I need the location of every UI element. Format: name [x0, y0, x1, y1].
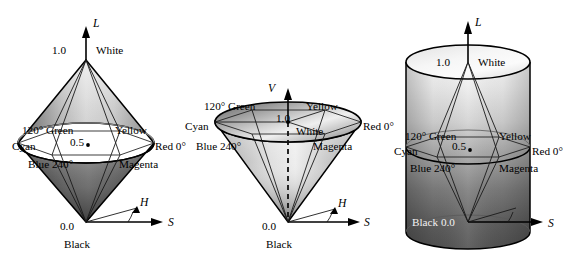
label-green: 120° Green	[22, 124, 74, 136]
label-cyan: Cyan	[394, 145, 418, 157]
label-white: White	[96, 44, 123, 56]
label-bottom-value: 0.0	[60, 220, 74, 232]
diagram-hls-double-cone: L 1.0 White 120° Green Yellow Cyan Red 0…	[12, 17, 186, 250]
label-axis-S: S	[548, 217, 554, 230]
label-axis-L: L	[92, 17, 99, 30]
label-red: Red 0°	[363, 120, 394, 132]
diagram-hsl-cylinder: L 1.0 White 120° Green Yellow Cyan Red 0…	[394, 16, 563, 249]
label-bottom-value: 0.0	[262, 220, 276, 232]
label-blue: Blue 240°	[410, 162, 455, 174]
diagram-hsv-cone: V 1.0 White 120° Green Yellow Cyan Red 0…	[185, 82, 394, 250]
axis-S-and-H	[288, 207, 360, 226]
label-magenta: Magenta	[313, 140, 352, 152]
label-black: Black	[64, 238, 91, 250]
label-blue: Blue 240°	[28, 158, 73, 170]
label-top-value: 1.0	[436, 56, 450, 68]
label-mid-value: 0.5	[452, 140, 466, 152]
label-cyan: Cyan	[12, 140, 36, 152]
label-blue: Blue 240°	[196, 140, 241, 152]
label-red: Red 0°	[532, 145, 563, 157]
label-yellow: Yellow	[306, 100, 339, 112]
label-yellow: Yellow	[499, 130, 532, 142]
color-space-diagrams-svg: L 1.0 White 120° Green Yellow Cyan Red 0…	[0, 0, 581, 257]
label-magenta: Magenta	[119, 158, 158, 170]
label-red: Red 0°	[155, 140, 186, 152]
label-axis-V: V	[268, 82, 277, 95]
label-yellow: Yellow	[115, 124, 148, 136]
label-axis-H: H	[337, 197, 347, 210]
label-axis-H: H	[139, 196, 149, 209]
label-cyan: Cyan	[185, 120, 209, 132]
label-axis-S: S	[364, 216, 370, 229]
label-green: 120° Green	[204, 100, 256, 112]
label-axis-L: L	[474, 16, 481, 29]
label-black: Black	[266, 238, 293, 250]
center-point-marker	[86, 143, 90, 147]
label-top-value: 1.0	[276, 112, 290, 124]
label-bottom-value: Black 0.0	[412, 216, 455, 228]
label-axis-S: S	[168, 216, 174, 229]
label-green: 120° Green	[405, 130, 457, 142]
color-space-figure: L 1.0 White 120° Green Yellow Cyan Red 0…	[0, 0, 581, 257]
label-mid-value: 0.5	[70, 136, 84, 148]
center-point-marker	[468, 148, 472, 152]
axis-L	[82, 26, 90, 60]
label-top-value: 1.0	[52, 44, 66, 56]
label-magenta: Magenta	[499, 162, 538, 174]
label-white: White	[478, 56, 505, 68]
label-white: White	[296, 125, 323, 137]
